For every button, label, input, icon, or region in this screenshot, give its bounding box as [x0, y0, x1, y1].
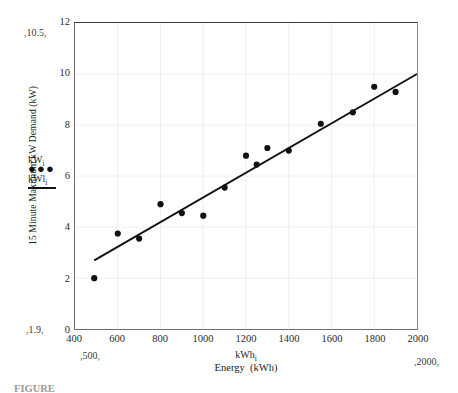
- annotation-y-top-note: 10.5: [24, 27, 47, 38]
- y-tick-12: 12: [40, 17, 70, 28]
- data-point: [200, 213, 206, 219]
- x-axis-tick-labels: 400600800100012001400160018002000: [74, 334, 418, 348]
- data-points: [91, 84, 399, 282]
- annotation-y-bottom-note: 1.9: [26, 324, 44, 335]
- figure-root: 024681012 15 Minute Maximum kW Demand (k…: [0, 0, 458, 393]
- x-axis-title: Energy (kWh): [74, 362, 418, 373]
- data-point: [115, 230, 121, 236]
- data-point: [91, 275, 97, 281]
- x-axis-subscript-label: kWhi: [74, 349, 418, 360]
- data-point: [222, 185, 228, 191]
- data-point: [243, 153, 249, 159]
- legend-marker-dots: ●●●: [28, 165, 68, 173]
- y-tick-2: 2: [40, 273, 70, 284]
- y-tick-10: 10: [40, 68, 70, 79]
- gridlines: [75, 23, 417, 329]
- x-axis-subscript-base: kWh: [235, 349, 254, 360]
- annotation-x-right-note: 2000: [414, 356, 439, 367]
- legend: kWi ●●● kWli: [28, 154, 68, 189]
- data-point: [371, 84, 377, 90]
- y-tick-4: 4: [40, 222, 70, 233]
- data-point: [350, 109, 356, 115]
- plot-area: [74, 22, 418, 330]
- legend-marker-line: [28, 187, 56, 189]
- annotation-x-left-note: 500: [80, 350, 100, 361]
- figure-caption: FIGURE: [14, 383, 55, 393]
- data-point: [136, 236, 142, 242]
- x-tick-2000: 2000: [390, 334, 446, 345]
- data-point: [254, 162, 260, 168]
- plot-canvas: [75, 23, 417, 329]
- data-point: [264, 145, 270, 151]
- data-point: [179, 210, 185, 216]
- data-point: [318, 121, 324, 127]
- y-tick-8: 8: [40, 119, 70, 130]
- data-point: [286, 148, 292, 154]
- data-point: [393, 89, 399, 95]
- legend-item-kwl-subscript: i: [45, 178, 47, 187]
- data-point: [157, 201, 163, 207]
- legend-item-kwl-label: kWl: [28, 173, 45, 184]
